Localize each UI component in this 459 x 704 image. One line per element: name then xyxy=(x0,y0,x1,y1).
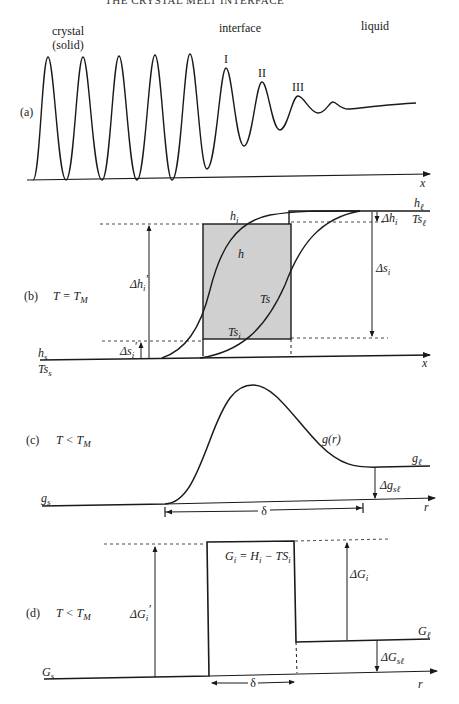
label-solid: (solid) xyxy=(52,38,83,52)
x-axis-a xyxy=(27,174,430,180)
label-h: h xyxy=(238,247,244,261)
density-profile-curve xyxy=(33,54,416,180)
delta-label-d: δ xyxy=(250,676,256,690)
label-crystal: crystal xyxy=(52,24,85,38)
delta-gi-label: ΔGi xyxy=(349,567,369,583)
dashed-gibbs-surface-d xyxy=(296,642,297,673)
delta-arrow-right-d xyxy=(258,682,294,683)
label-gl-d: Gℓ xyxy=(418,624,431,640)
r-axis-d xyxy=(209,671,437,676)
label-hi: hi xyxy=(230,209,239,225)
r-axis-label-c: r xyxy=(424,500,429,514)
condition-c: T < TM xyxy=(56,433,91,449)
g-r-curve xyxy=(42,385,430,506)
label-gs-d: Gs xyxy=(42,665,55,681)
x-axis-label-a: x xyxy=(419,176,426,190)
panel-tag-b: (b) xyxy=(24,289,38,303)
label-g-r: g(r) xyxy=(322,432,341,446)
delta-width-left xyxy=(165,511,258,512)
panel-a: crystal (solid) interface liquid I II II… xyxy=(20,19,430,190)
panel-b: x Δhi′ Δsi′ Δhi Δsi hi h Ts Tsi hs Tss h… xyxy=(24,196,430,378)
panel-tag-c: (c) xyxy=(26,433,39,447)
label-tsl: Tsℓ xyxy=(412,212,426,228)
peak-label-ii: II xyxy=(258,66,266,80)
delta-hi-label: Δhi xyxy=(381,211,398,227)
x-axis-label-b: x xyxy=(421,356,428,370)
peak-label-iii: III xyxy=(292,80,304,94)
delta-si-label: Δsi xyxy=(375,261,391,277)
peak-label-i: I xyxy=(224,52,228,66)
panel-tag-a: (a) xyxy=(20,105,33,119)
delta-gsl-label: Δgsℓ xyxy=(379,478,401,494)
figure-canvas: THE CRYSTAL MELT INTERFACE crystal (soli… xyxy=(0,0,459,704)
label-gl: gℓ xyxy=(412,451,422,467)
label-hs: hs xyxy=(38,346,48,362)
r-axis-c xyxy=(165,498,435,504)
x-axis-b xyxy=(40,355,430,360)
delta-gi-prime-label: ΔGi′ xyxy=(129,602,151,623)
delta-width-right xyxy=(270,508,363,510)
r-axis-label-d: r xyxy=(418,677,423,691)
condition-d: T < TM xyxy=(56,606,91,622)
gi-equation: Gi = Hi − TSi xyxy=(225,549,291,565)
panel-tag-d: (d) xyxy=(26,606,40,620)
condition-b: T = TM xyxy=(53,289,88,305)
panel-c: (c) T < TM r Δgsℓ δ g(r) gs gℓ xyxy=(26,385,435,518)
label-liquid: liquid xyxy=(361,19,389,33)
running-header: THE CRYSTAL MELT INTERFACE xyxy=(105,0,284,6)
delta-label-c: δ xyxy=(261,504,267,518)
delta-si-prime-label: Δsi′ xyxy=(119,339,137,360)
label-hl: hℓ xyxy=(414,196,424,212)
panel-d: (d) T < TM r ΔGi′ ΔGi ΔGsℓ δ Gi = Hi − T… xyxy=(26,539,437,691)
interface-excess-box xyxy=(203,224,291,339)
delta-hi-prime-label: Δhi′ xyxy=(129,272,149,293)
label-ts: Ts xyxy=(260,292,271,306)
delta-gsl-label-d: ΔGsℓ xyxy=(380,650,404,666)
label-gs: gs xyxy=(41,491,51,507)
label-tss: Tss xyxy=(38,362,52,378)
dashed-gi-right xyxy=(295,539,390,541)
label-interface: interface xyxy=(219,21,261,35)
